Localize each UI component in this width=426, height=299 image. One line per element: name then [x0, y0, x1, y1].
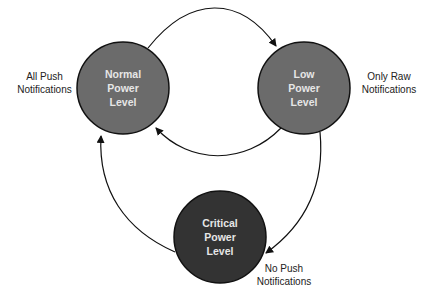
node-critical-line-2: Power [180, 230, 260, 244]
annotation-only-raw: Only Raw Notifications [355, 70, 423, 96]
edge-low-to-normal [156, 128, 281, 156]
node-normal-line-3: Level [83, 95, 163, 109]
node-normal-line-1: Normal [83, 67, 163, 81]
node-normal-line-2: Power [83, 81, 163, 95]
annotation-no-push-line-2: Notifications [250, 275, 318, 288]
node-low-line-3: Level [264, 95, 344, 109]
node-critical-line-3: Level [180, 244, 260, 258]
node-normal-label: Normal Power Level [83, 67, 163, 109]
edge-low-to-critical [266, 132, 321, 253]
node-low-line-1: Low [264, 67, 344, 81]
annotation-all-push-line-1: All Push [12, 70, 77, 83]
annotation-no-push-line-1: No Push [250, 262, 318, 275]
node-low-line-2: Power [264, 81, 344, 95]
annotation-all-push-line-2: Notifications [12, 83, 77, 96]
node-critical-line-1: Critical [180, 216, 260, 230]
annotation-only-raw-line-2: Notifications [355, 83, 423, 96]
node-critical-label: Critical Power Level [180, 216, 260, 258]
node-low-label: Low Power Level [264, 67, 344, 109]
annotation-only-raw-line-1: Only Raw [355, 70, 423, 83]
annotation-no-push: No Push Notifications [250, 262, 318, 288]
edge-critical-to-normal [101, 136, 175, 252]
edge-normal-to-low [148, 8, 276, 48]
annotation-all-push: All Push Notifications [12, 70, 77, 96]
